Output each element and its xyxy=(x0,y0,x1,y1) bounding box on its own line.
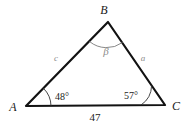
vertex-label-a: A xyxy=(8,100,17,114)
angle-label-a: 48° xyxy=(55,91,69,102)
angle-label-c: 57° xyxy=(124,90,138,101)
side-label-c: c xyxy=(54,53,58,63)
triangle-outline xyxy=(26,22,165,106)
angle-arc-c xyxy=(141,86,152,105)
angle-arc-a xyxy=(43,88,51,106)
triangle-diagram-svg: B A C c a 47 48° 57° β xyxy=(0,0,184,126)
side-label-a: a xyxy=(141,53,146,63)
side-label-base: 47 xyxy=(90,111,102,123)
vertex-label-b: B xyxy=(100,3,108,17)
angle-label-b-beta: β xyxy=(102,45,109,57)
vertex-label-c: C xyxy=(172,99,181,113)
triangle-figure: B A C c a 47 48° 57° β xyxy=(0,0,184,126)
